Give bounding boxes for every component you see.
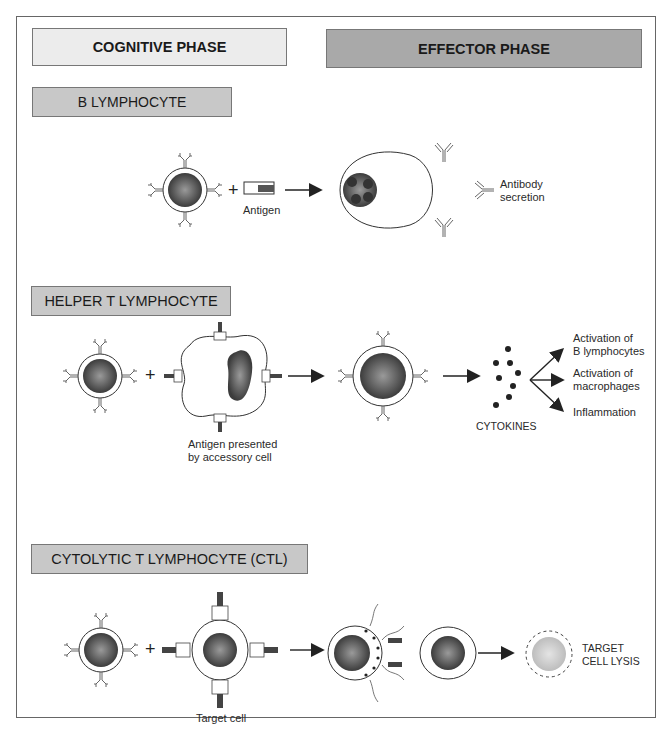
outcome-macrophages-1: Activation of: [573, 367, 633, 380]
cytokine-effect-arrows: [530, 350, 562, 410]
outcome-inflammation: Inflammation: [573, 406, 636, 419]
b-lymphocyte-cell: [148, 153, 222, 227]
cytokine-dots: [493, 346, 521, 408]
diagram-graphics: + +: [0, 0, 670, 747]
antigen-presented-label-2: by accessory cell: [188, 451, 272, 464]
svg-text:+: +: [145, 639, 156, 659]
outcome-b-lymphocytes-1: Activation of: [573, 332, 633, 345]
cytokines-label: CYTOKINES: [476, 420, 537, 433]
antigen-label: Antigen: [243, 204, 280, 217]
accessory-cell: [164, 322, 282, 432]
antibody-label-1: Antibody: [500, 178, 543, 191]
antigen-presented-label-1: Antigen presented: [188, 438, 277, 451]
helper-t-cell: [63, 339, 137, 413]
lysed-target-cell: [526, 631, 572, 677]
activated-helper-t-cell: [338, 331, 428, 421]
secreted-antibodies: [435, 143, 494, 237]
antibody-label-2: secretion: [500, 191, 545, 204]
target-cell: [162, 592, 278, 708]
plasma-cell: [340, 152, 433, 228]
target-cell-label: Target cell: [196, 712, 246, 725]
svg-text:+: +: [228, 180, 239, 200]
antigen-icon: [244, 182, 274, 194]
svg-text:+: +: [145, 365, 156, 385]
target-cell-lysis-label-1: TARGET: [582, 642, 624, 655]
outcome-macrophages-2: macrophages: [573, 380, 640, 393]
ctl-cell: [64, 613, 138, 687]
ctl-target-conjugate: [328, 604, 476, 702]
outcome-b-lymphocytes-2: B lymphocytes: [573, 345, 645, 358]
target-cell-lysis-label-2: CELL LYSIS: [582, 655, 640, 668]
